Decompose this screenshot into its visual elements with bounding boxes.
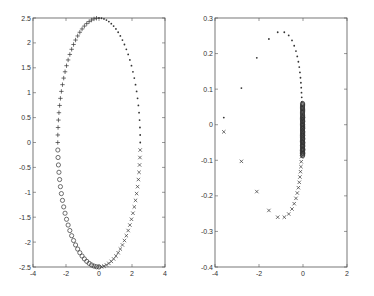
circle-marker [56,148,60,152]
circle-marker [68,228,72,232]
point-marker [288,35,290,37]
y-tick-label: 2 [27,39,31,46]
y-tick-label: 1 [27,89,31,96]
point-marker [223,117,225,119]
point-marker [277,31,279,33]
cross-marker [255,190,258,193]
plus-marker [75,34,79,38]
axes-box [215,18,347,267]
cross-marker [287,212,290,215]
plus-marker [64,64,68,68]
point-marker [268,38,270,40]
cross-marker [299,170,302,173]
cross-marker [121,243,124,246]
cross-marker [112,257,115,260]
y-tick-label: -2 [25,239,31,246]
cross-marker [134,199,137,202]
cross-marker [137,178,140,181]
point-marker [129,59,131,61]
cross-marker [123,239,126,242]
point-marker [293,45,295,47]
circle-marker [63,211,67,215]
y-tick-label: -2.5 [19,264,31,271]
x-tick-label: -4 [30,270,36,277]
point-marker [108,21,110,23]
point-marker [132,71,134,73]
y-tick-label: -1 [25,189,31,196]
y-tick-label: -0.5 [19,164,31,171]
point-marker [298,66,300,68]
plus-marker [92,17,96,21]
plus-marker [59,89,63,93]
cross-marker [298,181,301,184]
x-tick-label: 2 [130,270,134,277]
cross-marker [297,186,300,189]
cross-marker [138,163,141,166]
circle-marker [56,163,60,167]
plus-marker [57,111,61,115]
cross-marker [138,148,141,151]
y-tick-label: 0.1 [203,86,213,93]
cross-marker [299,165,302,168]
point-marker [297,61,299,63]
y-tick-label: -1.5 [19,214,31,221]
circle-marker [59,191,63,195]
plus-marker [78,30,82,34]
cross-marker [126,229,129,232]
y-tick-label: 0 [209,121,213,128]
x-tick-label: 4 [163,270,167,277]
point-marker [139,127,141,129]
point-marker [133,77,135,79]
y-tick-label: -0.2 [201,192,213,199]
point-marker [137,105,139,107]
circle-marker [60,198,64,202]
point-marker [301,92,303,94]
y-tick-label: 0.5 [21,114,31,121]
y-tick-label: 1.5 [21,64,31,71]
point-marker [103,18,105,20]
point-marker [124,44,126,46]
cross-marker [290,207,293,210]
x-tick-label: 2 [345,270,349,277]
point-marker [135,84,137,86]
point-marker [295,50,297,52]
circle-marker [73,243,77,247]
point-marker [241,87,243,89]
cross-marker [296,191,299,194]
right-curve-plot: -4-202-0.4-0.3-0.2-0.100.10.20.3 [201,15,349,278]
cross-marker [283,216,286,219]
y-tick-label: -0.3 [201,228,213,235]
x-tick-label: 0 [301,270,305,277]
plus-marker [94,16,98,20]
circle-marker [82,257,86,261]
plus-marker [56,133,60,137]
cross-marker [136,185,139,188]
point-marker [119,35,121,37]
point-marker [283,31,285,33]
cross-marker [300,160,303,163]
x-tick-label: -4 [212,270,218,277]
y-tick-label: -0.1 [201,157,213,164]
circle-marker [80,254,84,258]
circle-marker [56,155,60,159]
cross-marker [128,223,131,226]
plus-marker [58,96,62,100]
plus-marker [61,76,65,80]
y-tick-label: 0.3 [203,15,213,22]
point-marker [117,31,119,33]
circle-marker [66,223,70,227]
point-marker [256,57,258,59]
point-marker [137,97,139,99]
point-marker [300,77,302,79]
point-marker [291,40,293,42]
point-marker [301,96,303,98]
point-marker [106,19,108,21]
point-marker [139,142,141,144]
circle-marker [71,238,75,242]
cross-marker [276,216,279,219]
x-tick-label: 0 [97,270,101,277]
plus-marker [57,103,61,107]
plus-marker [82,24,86,28]
point-marker [122,39,124,41]
cross-marker [131,212,134,215]
